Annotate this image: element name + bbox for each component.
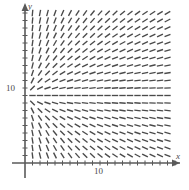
slope-segment: [105, 11, 110, 16]
slope-segment: [90, 139, 95, 143]
slope-segment: [39, 145, 41, 151]
slope-segment: [90, 64, 96, 67]
slope-segment: [61, 25, 64, 31]
slope-segment: [74, 110, 80, 112]
slope-segment: [127, 49, 133, 52]
slope-segment: [127, 117, 133, 118]
slope-segment: [46, 123, 50, 128]
slope-segment: [135, 19, 140, 23]
slope-segment: [67, 109, 73, 111]
slope-segment: [98, 18, 103, 23]
slope-segment: [83, 26, 87, 31]
slope-segment: [97, 57, 103, 60]
slope-segment: [97, 139, 102, 142]
slope-segment: [67, 102, 73, 103]
slope-segment: [119, 88, 125, 89]
slope-segment: [165, 34, 171, 36]
slope-segment: [150, 154, 156, 157]
slope-segment: [127, 72, 133, 73]
slope-segment: [134, 110, 140, 111]
slope-segment: [53, 131, 57, 136]
slope-segment: [89, 117, 95, 119]
slope-segment: [46, 153, 48, 159]
slope-segment: [142, 26, 148, 29]
slope-segment: [39, 63, 42, 69]
slope-segment: [112, 103, 118, 104]
slope-segment: [149, 125, 155, 126]
slope-segment: [127, 42, 133, 45]
slope-segment: [60, 48, 64, 53]
slope-segment: [165, 27, 171, 30]
slope-segment: [142, 80, 148, 81]
slope-segment: [61, 40, 65, 45]
slope-segment: [150, 147, 156, 149]
slope-segment: [97, 41, 102, 45]
slope-segment: [157, 117, 163, 118]
slope-segment: [142, 110, 148, 111]
slope-segment: [105, 26, 110, 30]
slope-segment: [83, 41, 88, 45]
slope-segment: [105, 41, 110, 44]
slope-segment: [150, 27, 156, 30]
y-axis-label: y: [28, 2, 32, 11]
slope-segment: [157, 65, 163, 66]
slope-segment: [68, 33, 72, 38]
slope-segment: [105, 49, 111, 52]
slope-segment: [104, 80, 110, 81]
slope-segment: [134, 125, 140, 127]
slope-segment: [113, 18, 118, 22]
slope-segment: [53, 40, 56, 46]
slope-segment: [75, 56, 80, 60]
slope-segment: [97, 110, 103, 111]
slope-segment: [149, 49, 155, 51]
slope-segment: [134, 57, 140, 59]
slope-segment: [38, 115, 42, 120]
slope-segment: [32, 145, 33, 151]
slope-field-figure: y x 10 10: [0, 0, 189, 190]
slope-segment: [112, 117, 118, 119]
slope-segment: [120, 139, 126, 142]
slope-segment: [165, 154, 171, 156]
slope-segment: [52, 87, 58, 89]
slope-segment: [82, 88, 88, 89]
slope-segment: [127, 147, 133, 150]
slope-segment: [149, 57, 155, 59]
slope-segment: [52, 116, 57, 120]
slope-segment: [135, 34, 141, 37]
slope-segment: [82, 110, 88, 112]
slope-segment: [90, 124, 96, 127]
slope-segment: [119, 65, 125, 67]
slope-segment: [60, 138, 64, 143]
slope-segment: [32, 137, 33, 143]
slope-segment: [44, 102, 50, 104]
slope-segment: [127, 57, 133, 59]
slope-segment: [45, 109, 50, 113]
x-tick-label-10: 10: [94, 167, 103, 176]
slope-segment: [157, 27, 163, 30]
slope-segment: [68, 48, 73, 53]
x-axis-label: x: [176, 152, 180, 161]
slope-segment: [39, 17, 40, 23]
slope-segment: [75, 41, 80, 46]
slope-segment: [82, 117, 88, 119]
slope-segment: [165, 19, 171, 22]
slope-segment: [112, 64, 118, 66]
slope-segment: [74, 80, 80, 82]
slope-segment: [90, 146, 95, 150]
slope-segment: [82, 124, 88, 127]
slope-segment: [157, 42, 163, 44]
slope-segment: [83, 18, 87, 23]
slope-segment: [38, 108, 43, 113]
slope-segment: [47, 10, 49, 16]
slope-segment: [104, 103, 110, 104]
slope-segment: [60, 79, 66, 81]
slope-segment: [127, 132, 133, 134]
slope-segment: [120, 154, 125, 157]
slope-segment: [32, 25, 33, 31]
slope-segment: [83, 146, 88, 150]
slope-segment: [54, 33, 57, 39]
slope-segment: [32, 130, 33, 136]
slope-segment: [74, 103, 80, 104]
slope-segment: [127, 65, 133, 67]
slope-segment: [112, 34, 117, 38]
